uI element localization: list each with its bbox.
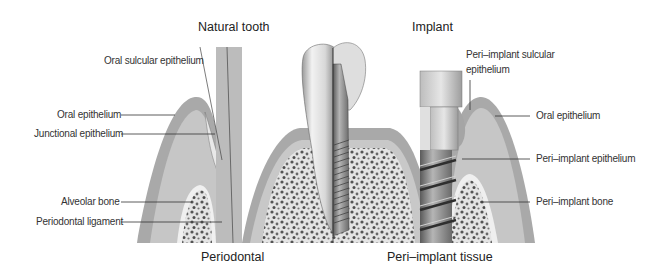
periodontal-illustration [137,47,242,243]
tooth-vs-implant-diagram: Natural tooth Implant Periodontal Peri–i… [0,0,660,277]
title-periodontal: Periodontal [201,250,264,264]
peri-implant-illustration [420,71,535,243]
center-comparison-illustration [242,43,435,243]
title-natural-tooth: Natural tooth [198,20,270,34]
label-peri-implant-bone: Peri–implant bone [536,196,613,207]
label-oral-sulcular-epithelium: Oral sulcular epithelium [104,55,204,66]
label-alveolar-bone: Alveolar bone [61,196,120,207]
label-oral-epithelium-left: Oral epithelium [57,109,121,120]
title-peri-implant-tissue: Peri–implant tissue [387,250,493,264]
label-peri-implant-sulcular-epithelium-1: Peri–implant sulcular [466,49,555,60]
label-oral-epithelium-right: Oral epithelium [536,110,600,121]
label-periodontal-ligament: Periodontal ligament [36,216,123,227]
label-peri-implant-sulcular-epithelium-2: epithelium [466,64,510,75]
label-peri-implant-epithelium: Peri–implant epithelium [536,153,635,164]
title-implant: Implant [412,20,453,34]
label-junctional-epithelium: Junctional epithelium [34,128,123,139]
